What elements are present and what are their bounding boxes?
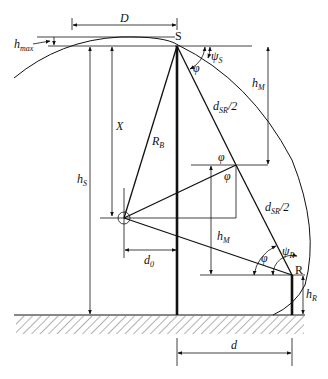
- psi-S-arc: [208, 47, 210, 58]
- label-d-SR-bottom: dSR/2: [265, 200, 289, 216]
- label-phi-S: φ: [193, 61, 200, 75]
- label-R: R: [295, 263, 303, 277]
- geometry-diagram: D hmax S ψS φ hM dSR/2 X RB hS φ φ dSR/2…: [0, 0, 328, 379]
- label-phi-M-bottom: φ: [224, 169, 231, 183]
- label-X: X: [115, 119, 124, 133]
- label-h-S: hS: [77, 172, 87, 188]
- label-h-R: hR: [306, 287, 317, 303]
- label-d: d: [231, 338, 238, 352]
- ground: [14, 315, 305, 334]
- label-phi-M-top: φ: [218, 150, 225, 164]
- label-d-SR-top: dSR/2: [213, 99, 237, 115]
- label-D: D: [119, 11, 129, 25]
- label-psi-R: ψR: [282, 244, 294, 260]
- label-phi-R: φ: [261, 251, 268, 265]
- label-S: S: [175, 29, 182, 43]
- label-d0: d0: [144, 253, 154, 269]
- R-B-line: [124, 46, 177, 218]
- label-psi-S: ψS: [211, 49, 222, 65]
- obstacle-arc: [14, 37, 310, 315]
- label-h-M-top: hM: [252, 76, 266, 92]
- label-h-max: hmax: [14, 37, 34, 53]
- label-h-M-bottom: hM: [217, 229, 231, 245]
- label-R-B: RB: [151, 134, 164, 150]
